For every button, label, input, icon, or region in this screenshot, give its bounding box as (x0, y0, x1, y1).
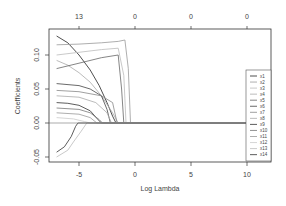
legend-label-x8: x8 (260, 116, 265, 121)
top-axis-df: 13000 (75, 13, 249, 29)
legend-label-x2: x2 (260, 80, 265, 85)
series-line-x9 (57, 103, 250, 123)
y-tick-label: -0.05 (33, 149, 40, 165)
series-line-x8 (57, 96, 250, 123)
series-line-x1 (57, 36, 250, 123)
legend-label-x13: x13 (260, 146, 268, 151)
legend-label-x5: x5 (260, 98, 265, 103)
legend-label-x7: x7 (260, 110, 265, 115)
y-axis: -0.050.000.050.10 (33, 48, 49, 165)
legend-label-x4: x4 (260, 92, 265, 97)
legend-label-x3: x3 (260, 86, 265, 91)
plot-frame (49, 29, 271, 162)
x-tick-label: 0 (133, 171, 137, 178)
series-line-x2 (57, 40, 250, 123)
top-tick-label: 0 (189, 13, 193, 20)
x-axis-label: Log Lambda (141, 185, 180, 193)
series-line-x12 (57, 118, 250, 123)
legend-label-x6: x6 (260, 104, 265, 109)
legend-label-x9: x9 (260, 122, 265, 127)
series-line-x14 (57, 123, 250, 152)
series-line-x4 (57, 60, 250, 123)
legend-label-x10: x10 (260, 128, 268, 133)
top-tick-label: 13 (75, 13, 83, 20)
y-axis-label: Coefficients (14, 77, 21, 114)
x-tick-label: 5 (189, 171, 193, 178)
coefficient-lines (57, 36, 250, 157)
top-tick-label: 0 (133, 13, 137, 20)
legend: x1x2x3x4x5x6x7x8x9x10x11x12x13x14 (246, 70, 271, 161)
x-axis: -50510 (76, 162, 251, 178)
y-tick-label: 0.10 (33, 48, 40, 62)
coefficient-path-chart: -50510 -0.050.000.050.10 13000 Log Lambd… (0, 0, 286, 206)
legend-label-x11: x11 (260, 134, 267, 139)
x-tick-label: -5 (76, 171, 82, 178)
series-line-x10 (57, 108, 250, 123)
series-line-x6 (57, 84, 250, 123)
y-tick-label: 0.05 (33, 82, 40, 96)
legend-label-x1: x1 (260, 74, 265, 79)
y-tick-label: 0.00 (33, 116, 40, 130)
series-line-x13 (57, 123, 250, 157)
x-tick-label: 10 (243, 171, 251, 178)
series-line-x5 (57, 55, 250, 123)
legend-label-x12: x12 (260, 140, 268, 145)
series-line-x7 (57, 90, 250, 123)
top-tick-label: 0 (245, 13, 249, 20)
legend-label-x14: x14 (260, 152, 268, 157)
